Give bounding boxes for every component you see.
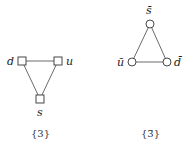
triplet-diagram: d u s {3} <box>7 55 73 139</box>
node-sbar-circle <box>146 20 154 28</box>
edge-sbar-ubar <box>132 24 150 62</box>
antitriplet-diagram: s̄ ū d̄ {3̄} <box>117 4 183 139</box>
node-s-square <box>36 95 44 103</box>
label-d: d <box>7 55 14 68</box>
caption-triplet: {3} <box>31 128 50 139</box>
node-dbar-circle <box>163 58 171 66</box>
edge-d-s <box>22 61 40 99</box>
node-d-square <box>18 57 26 65</box>
node-ubar-circle <box>128 58 136 66</box>
label-dbar: d̄ <box>174 56 183 69</box>
label-ubar: ū <box>117 56 124 69</box>
caption-antitriplet: {3̄} <box>141 128 160 139</box>
node-u-square <box>54 57 62 65</box>
diagram-canvas: d u s {3} s̄ ū d̄ {3̄} <box>0 0 188 147</box>
label-sbar: s̄ <box>146 4 152 17</box>
edge-sbar-dbar <box>150 24 167 62</box>
label-s: s <box>37 106 43 119</box>
label-u: u <box>66 55 73 68</box>
edge-u-s <box>40 61 58 99</box>
